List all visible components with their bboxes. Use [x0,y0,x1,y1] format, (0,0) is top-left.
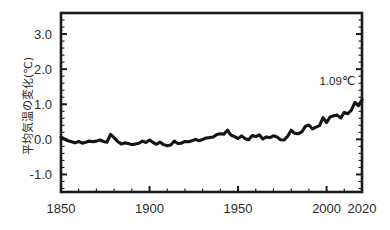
end-value-annotation: 1.09℃ [320,75,355,87]
x-tick-label: 1900 [135,201,164,216]
annotations-group: 1.09℃ [320,75,355,87]
y-axis-title-group: 平均気温の変化(℃) [21,57,35,155]
y-tick-label: -1.0 [30,167,52,182]
x-axis-tick-labels: 18501900195020002020 [47,201,377,216]
x-tick-label: 2000 [312,201,341,216]
series-line [61,100,362,146]
y-tick-label: 0.0 [34,132,52,147]
x-tick-label: 1850 [47,201,76,216]
x-tick-label: 2020 [348,201,377,216]
axis-tick-marks [61,13,362,192]
y-tick-label: 3.0 [34,27,52,42]
plot-frame [61,13,362,192]
x-tick-label: 1950 [224,201,253,216]
series-group [61,100,362,146]
chart-canvas: 平均気温の変化(℃) -1.00.01.02.03.0 185019001950… [0,0,390,230]
y-tick-label: 1.0 [34,97,52,112]
y-axis-tick-labels: -1.00.01.02.03.0 [30,27,52,182]
temperature-anomaly-chart: 平均気温の変化(℃) -1.00.01.02.03.0 185019001950… [0,0,390,230]
y-tick-label: 2.0 [34,62,52,77]
y-axis-title: 平均気温の変化(℃) [21,57,35,155]
